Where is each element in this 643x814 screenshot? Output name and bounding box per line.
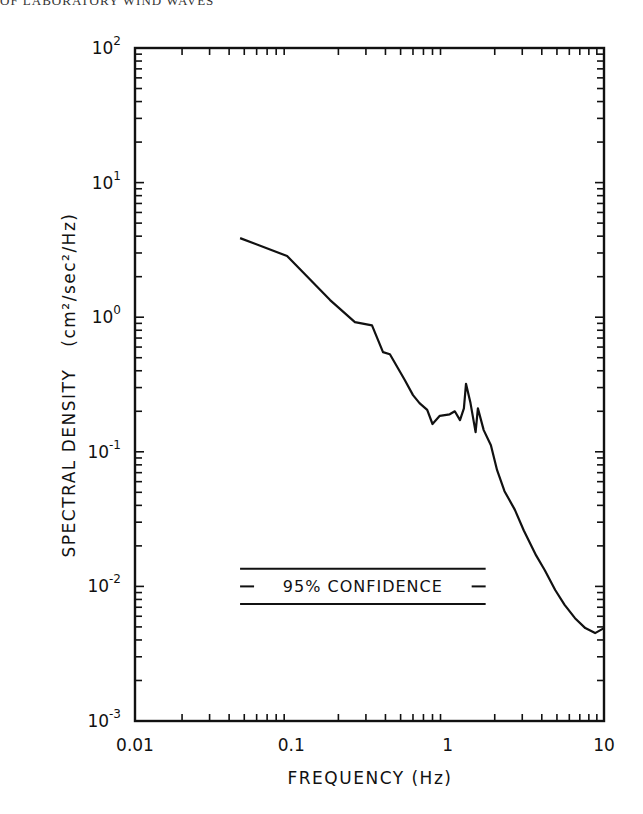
- spectrum-line: [240, 238, 604, 633]
- plot-frame: [135, 48, 604, 721]
- y-tick-label: 10-1: [87, 438, 121, 462]
- y-axis-title: SPECTRAL DENSITY(cm²/sec²/Hz): [59, 213, 79, 558]
- spectral-density-chart: 0.010.1110 10-310-210-1100101102 95% CON…: [0, 0, 643, 814]
- y-tick-label: 10-3: [87, 707, 121, 731]
- confidence-interval: 95% CONFIDENCE: [240, 569, 486, 604]
- y-tick-label: 102: [92, 34, 121, 58]
- x-tick-label: 0.1: [278, 735, 305, 755]
- y-tick-label: 10-2: [87, 572, 121, 596]
- x-tick-label: 1: [442, 735, 453, 755]
- x-tick-labels: 0.010.1110: [116, 735, 615, 755]
- y-tick-label: 100: [92, 303, 121, 327]
- y-tick-labels: 10-310-210-1100101102: [87, 34, 121, 731]
- confidence-label: 95% CONFIDENCE: [283, 577, 443, 596]
- axis-ticks: [135, 48, 604, 721]
- x-tick-label: 10: [593, 735, 615, 755]
- x-axis-title: FREQUENCY (Hz): [288, 768, 453, 788]
- svg-text:SPECTRAL DENSITY(cm²/sec²/Hz): SPECTRAL DENSITY(cm²/sec²/Hz): [59, 213, 79, 558]
- data-series: [240, 238, 604, 633]
- y-tick-label: 101: [92, 169, 121, 193]
- x-tick-label: 0.01: [116, 735, 154, 755]
